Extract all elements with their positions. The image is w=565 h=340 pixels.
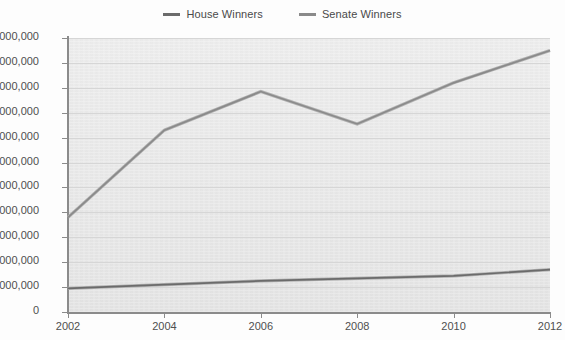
y-tick-mark [62, 113, 67, 114]
y-tick-mark [62, 262, 67, 263]
y-tick-mark [62, 88, 67, 89]
plot-area [68, 38, 550, 312]
gridline [68, 88, 550, 89]
y-tick-mark [62, 187, 67, 188]
x-tick-label: 2006 [249, 320, 273, 332]
line-chart: House Winners Senate Winners 11,000,0001… [0, 0, 565, 340]
x-axis-line [67, 312, 551, 314]
gridline [68, 138, 550, 139]
x-tick-label: 2010 [441, 320, 465, 332]
x-tick-label: 2002 [56, 320, 80, 332]
gridline [68, 113, 550, 114]
x-tick-mark [550, 313, 551, 318]
gridline [68, 163, 550, 164]
legend-item-house-winners[interactable]: House Winners [163, 8, 263, 20]
y-tick-mark [62, 237, 67, 238]
chart-legend: House Winners Senate Winners [0, 4, 565, 24]
x-tick-mark [68, 313, 69, 318]
x-tick-label: 2008 [345, 320, 369, 332]
gridline [68, 212, 550, 213]
y-tick-mark [62, 212, 67, 213]
x-tick-label: 2004 [152, 320, 176, 332]
legend-label-house-winners: House Winners [186, 8, 263, 20]
x-tick-mark [357, 313, 358, 318]
x-tick-label: 2012 [538, 320, 562, 332]
y-tick-mark [62, 63, 67, 64]
y-tick-mark [62, 163, 67, 164]
line-swatch-icon [163, 13, 180, 16]
line-swatch-icon [299, 13, 316, 16]
x-tick-mark [261, 313, 262, 318]
y-tick-mark [62, 287, 67, 288]
gridline [68, 262, 550, 263]
gridline [68, 63, 550, 64]
x-tick-mark [164, 313, 165, 318]
y-tick-mark [62, 138, 67, 139]
y-tick-mark [62, 312, 67, 313]
x-tick-mark [454, 313, 455, 318]
gridline [68, 287, 550, 288]
legend-label-senate-winners: Senate Winners [322, 8, 402, 20]
gridline [68, 237, 550, 238]
plot-background-texture [68, 38, 550, 312]
y-axis-line [67, 36, 69, 314]
legend-item-senate-winners[interactable]: Senate Winners [299, 8, 402, 20]
y-tick-mark [62, 38, 67, 39]
gridline [68, 187, 550, 188]
gridline [68, 38, 550, 39]
